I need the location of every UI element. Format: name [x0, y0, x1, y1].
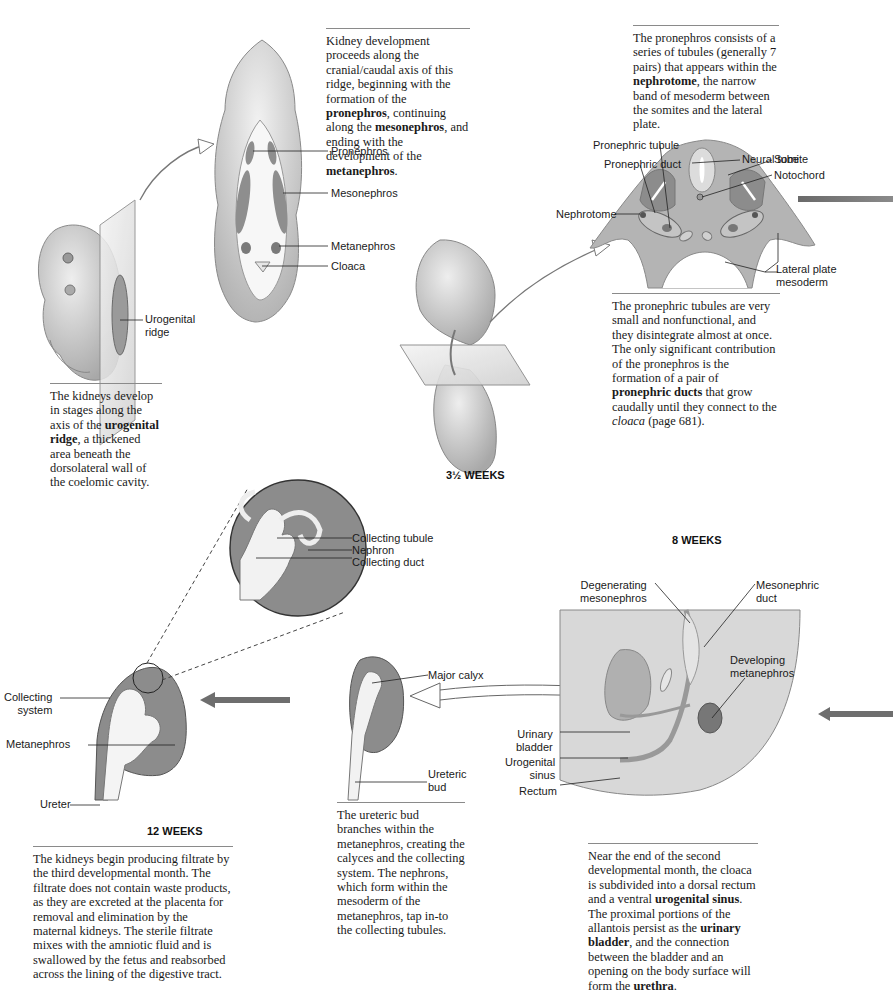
- label-cloaca: Cloaca: [331, 260, 365, 273]
- embryo-8-weeks: [560, 583, 800, 795]
- label-collecting-system: Collecting system: [4, 691, 52, 716]
- caption-cloaca-subdivision: Near the end of the second developmental…: [588, 843, 758, 993]
- label-degenerating-mesonephros: Degenerating mesonephros: [580, 579, 647, 604]
- label-pronephric-tubule: Pronephric tubule: [593, 139, 679, 152]
- ureteric-bud-kidney: [348, 657, 428, 800]
- label-nephron: Nephron: [352, 544, 394, 557]
- label-rectum: Rectum: [519, 785, 557, 798]
- caption-urogenital-ridge: The kidneys develop in stages along the …: [50, 383, 162, 490]
- label-mesonephros: Mesonephros: [331, 187, 398, 200]
- label-collecting-duct: Collecting duct: [352, 556, 424, 569]
- stage-8-weeks: 8 WEEKS: [672, 534, 722, 546]
- kidney-12-weeks: [60, 480, 366, 805]
- label-nephrotome: Nephrotome: [556, 208, 617, 221]
- label-pronephric-duct: Pronephric duct: [604, 158, 681, 171]
- caption-ureteric-bud: The ureteric bud branches within the met…: [337, 802, 465, 938]
- stage-3-5-weeks: 3½ WEEKS: [446, 469, 505, 481]
- label-urogenital-ridge: Urogenital ridge: [145, 313, 195, 338]
- embryo-3-5-weeks: [400, 240, 610, 474]
- label-metanephros-12wk: Metanephros: [6, 738, 70, 751]
- label-urinary-bladder: Urinary bladder: [516, 728, 553, 753]
- label-major-calyx: Major calyx: [428, 669, 484, 682]
- caption-pronephric-ducts: The pronephric tubules are very small an…: [612, 293, 780, 429]
- stage-12-weeks: 12 WEEKS: [147, 825, 203, 837]
- label-collecting-tubule: Collecting tubule: [352, 532, 433, 545]
- label-urogenital-sinus: Urogenital sinus: [505, 756, 555, 781]
- label-notochord: Notochord: [774, 169, 825, 182]
- label-developing-metanephros: Developing metanephros: [730, 654, 794, 679]
- embryo-dorsal-view: [120, 40, 328, 322]
- hollow-arrow-left: [410, 683, 440, 708]
- label-ureter: Ureter: [40, 798, 71, 811]
- caption-pronephros-tubules: The pronephros consists of a series of t…: [633, 25, 779, 132]
- flow-arrow-left-8wk: [818, 707, 893, 721]
- flow-arrow-left: [200, 692, 290, 708]
- caption-filtrate-production: The kidneys begin producing filtrate by …: [33, 846, 233, 982]
- label-pronephros: Pronephros: [331, 145, 388, 158]
- label-mesonephric-duct: Mesonephric duct: [756, 579, 819, 604]
- label-ureteric-bud: Ureteric bud: [428, 768, 467, 793]
- label-metanephros: Metanephros: [331, 240, 395, 253]
- label-lateral-plate-mesoderm: Lateral plate mesoderm: [776, 263, 837, 288]
- label-somite: Somite: [774, 153, 808, 166]
- flow-arrow-right: [798, 196, 893, 202]
